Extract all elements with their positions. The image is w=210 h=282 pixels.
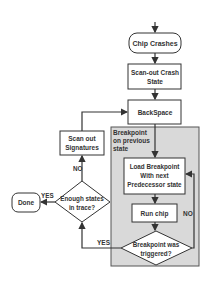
breakpoint-triggered-label-2: triggered? [140, 250, 171, 258]
triggered-no-label: NO [183, 210, 193, 217]
load-breakpoint-label-3: Predecessor state [127, 181, 182, 188]
region-label-3: state [113, 145, 129, 152]
enough-no-label: NO [73, 165, 83, 172]
scan-out-crash-state-node [128, 64, 181, 89]
enough-states-label-2: in trace? [69, 204, 95, 211]
scan-out-signatures-label-2: Signatures [65, 144, 99, 152]
scan-out-signatures-label-1: Scan out [68, 135, 96, 142]
done-label: Done [18, 199, 35, 206]
load-breakpoint-label-1: Load Breakpoint [130, 163, 181, 171]
backspace-label: BackSpace [138, 109, 173, 117]
region-label-1: Breakpoint [113, 129, 148, 137]
scan-out-crash-label-1: Scan-out Crash [131, 69, 179, 76]
chip-crashes-label: Chip Crashes [132, 40, 177, 48]
scan-out-crash-label-2: State [147, 78, 163, 85]
enough-yes-label: YES [41, 192, 54, 199]
enough-states-label-1: Enough states [60, 195, 104, 203]
triggered-yes-label: YES [97, 239, 111, 246]
region-label-2: on previous [113, 137, 150, 145]
run-chip-label: Run chip [141, 210, 169, 218]
breakpoint-triggered-label-1: Breakpoint was [133, 241, 180, 249]
flowchart: Chip Crashes Scan-out Crash State BackSp… [0, 0, 210, 282]
load-breakpoint-label-2: With next [140, 172, 169, 179]
